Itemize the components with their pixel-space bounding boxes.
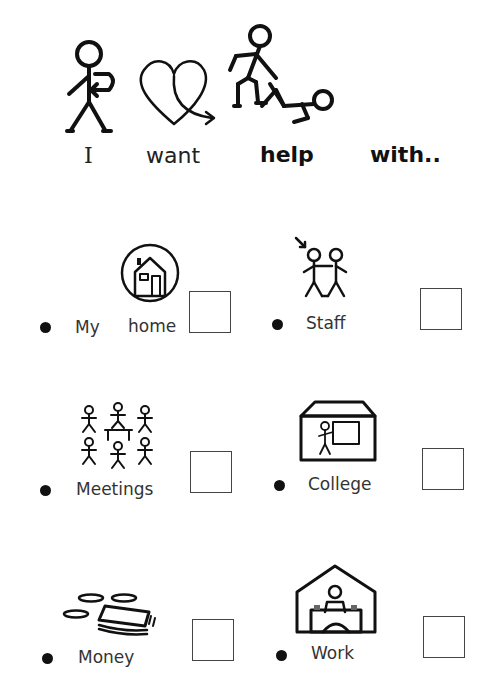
heart-want-icon	[138, 58, 228, 133]
header-word-want: want	[146, 143, 200, 168]
bullet	[40, 485, 51, 496]
item-label-college: College	[308, 474, 371, 494]
checkbox-meetings[interactable]	[190, 451, 232, 493]
item-label-meetings: Meetings	[76, 479, 153, 499]
help-people-icon	[226, 22, 341, 142]
checkbox-my-home[interactable]	[189, 291, 231, 333]
bullet	[40, 322, 51, 333]
checkbox-college[interactable]	[422, 448, 464, 490]
money-icon	[63, 590, 163, 640]
header-word-help: help	[260, 142, 314, 167]
item-label-work: Work	[311, 643, 354, 663]
bullet	[276, 650, 287, 661]
item-label-staff: Staff	[306, 313, 346, 333]
item-label-money: Money	[78, 647, 134, 667]
header-word-i: I	[84, 143, 93, 168]
bullet	[272, 319, 283, 330]
college-building-icon	[299, 400, 379, 462]
bullet	[42, 653, 53, 664]
item-label-home: home	[128, 316, 176, 336]
house-icon	[120, 246, 182, 308]
meeting-group-icon	[80, 402, 160, 472]
header-word-with: with..	[370, 142, 441, 167]
item-label-my: My	[75, 317, 100, 337]
workplace-icon	[295, 562, 381, 634]
checkbox-money[interactable]	[192, 619, 234, 661]
checkbox-work[interactable]	[423, 616, 465, 658]
checkbox-staff[interactable]	[420, 288, 462, 330]
staff-people-icon	[296, 238, 356, 303]
bullet	[274, 480, 285, 491]
person-self-icon	[65, 40, 125, 135]
